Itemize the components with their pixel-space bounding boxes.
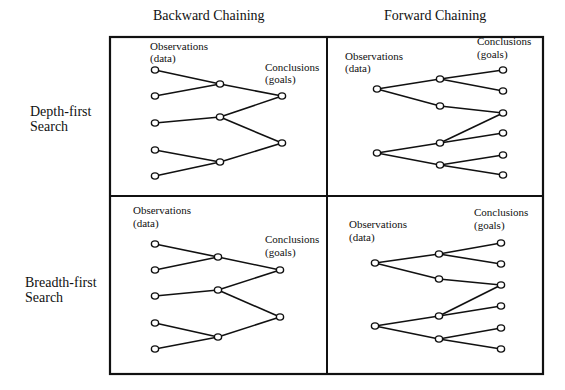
edge bbox=[377, 153, 440, 165]
conclusions-label: Conclusions bbox=[265, 233, 319, 245]
panels: Observations(data)Conclusions(goals)Obse… bbox=[133, 35, 531, 352]
edge bbox=[155, 84, 220, 96]
node-circle bbox=[373, 86, 380, 92]
edge bbox=[377, 143, 440, 153]
edge bbox=[155, 162, 220, 176]
node-circle bbox=[499, 67, 506, 73]
node-circle bbox=[214, 254, 221, 260]
panel-forward-depth-first: Observations(data)Conclusions(goals) bbox=[345, 35, 531, 178]
node-circle bbox=[151, 346, 158, 352]
edge bbox=[440, 70, 503, 79]
node-circle bbox=[499, 110, 506, 116]
node-circle bbox=[214, 334, 221, 340]
edge bbox=[218, 270, 280, 290]
edge bbox=[375, 263, 439, 279]
observations-label: Observations bbox=[345, 50, 403, 62]
edge bbox=[220, 84, 282, 96]
node-circle bbox=[436, 76, 443, 82]
node-circle bbox=[216, 114, 223, 120]
node-circle bbox=[276, 267, 283, 273]
edge bbox=[440, 79, 503, 91]
edge bbox=[439, 254, 501, 264]
edge bbox=[155, 150, 220, 162]
edge bbox=[155, 337, 218, 349]
panel-forward-breadth-first: Observations(data)Conclusions(goals) bbox=[349, 206, 528, 352]
node-circle bbox=[151, 120, 158, 126]
observations-label: Observations bbox=[349, 218, 407, 230]
node-circle bbox=[435, 313, 442, 319]
node-circle bbox=[151, 241, 158, 247]
edge bbox=[440, 155, 503, 165]
node-circle bbox=[436, 162, 443, 168]
panel-backward-breadth-first: Observations(data)Conclusions(goals) bbox=[133, 204, 319, 352]
node-circle bbox=[499, 88, 506, 94]
edge bbox=[155, 244, 218, 257]
node-circle bbox=[497, 282, 504, 288]
edge bbox=[377, 89, 440, 106]
edge bbox=[220, 96, 282, 117]
node-circle bbox=[216, 81, 223, 87]
node-circle bbox=[436, 103, 443, 109]
edge bbox=[440, 106, 503, 113]
conclusions-label: (goals) bbox=[477, 48, 508, 61]
node-circle bbox=[278, 140, 285, 146]
observations-label: (data) bbox=[349, 231, 375, 244]
edge bbox=[377, 79, 440, 89]
edge bbox=[439, 328, 501, 339]
node-circle bbox=[497, 346, 504, 352]
edge bbox=[155, 70, 220, 84]
node-circle bbox=[436, 140, 443, 146]
edge bbox=[439, 279, 501, 285]
conclusions-label: (goals) bbox=[474, 219, 505, 232]
node-circle bbox=[151, 93, 158, 99]
node-circle bbox=[497, 261, 504, 267]
node-circle bbox=[371, 323, 378, 329]
node-circle bbox=[435, 251, 442, 257]
chaining-diagram: Observations(data)Conclusions(goals)Obse… bbox=[0, 0, 565, 390]
edge bbox=[375, 316, 439, 326]
node-circle bbox=[151, 267, 158, 273]
edge bbox=[220, 143, 282, 162]
node-circle bbox=[151, 147, 158, 153]
edge bbox=[375, 254, 439, 263]
node-circle bbox=[497, 303, 504, 309]
node-circle bbox=[276, 314, 283, 320]
edge bbox=[375, 326, 439, 339]
observations-label: (data) bbox=[133, 217, 159, 230]
conclusions-label: Conclusions bbox=[265, 61, 319, 73]
edge bbox=[155, 323, 218, 337]
node-circle bbox=[499, 152, 506, 158]
observations-label: (data) bbox=[150, 52, 176, 65]
edge bbox=[439, 339, 501, 349]
conclusions-label: Conclusions bbox=[477, 35, 531, 47]
edge bbox=[218, 257, 280, 270]
node-circle bbox=[435, 276, 442, 282]
conclusions-label: (goals) bbox=[265, 73, 296, 86]
conclusions-label: Conclusions bbox=[474, 206, 528, 218]
node-circle bbox=[499, 172, 506, 178]
node-circle bbox=[497, 240, 504, 246]
edge bbox=[440, 165, 503, 175]
node-circle bbox=[151, 293, 158, 299]
node-circle bbox=[151, 67, 158, 73]
edge bbox=[155, 290, 218, 296]
observations-label: (data) bbox=[345, 62, 371, 75]
node-circle bbox=[216, 159, 223, 165]
edge bbox=[220, 117, 282, 143]
node-circle bbox=[371, 260, 378, 266]
conclusions-label: (goals) bbox=[265, 246, 296, 259]
node-circle bbox=[151, 320, 158, 326]
observations-label: Observations bbox=[150, 40, 208, 52]
node-circle bbox=[499, 130, 506, 136]
edge bbox=[218, 317, 280, 337]
node-circle bbox=[214, 287, 221, 293]
node-circle bbox=[373, 150, 380, 156]
edge bbox=[439, 243, 501, 254]
edge bbox=[155, 117, 220, 123]
edge bbox=[155, 257, 218, 270]
node-circle bbox=[278, 93, 285, 99]
node-circle bbox=[435, 336, 442, 342]
panel-backward-depth-first: Observations(data)Conclusions(goals) bbox=[150, 40, 319, 179]
node-circle bbox=[497, 325, 504, 331]
node-circle bbox=[151, 173, 158, 179]
